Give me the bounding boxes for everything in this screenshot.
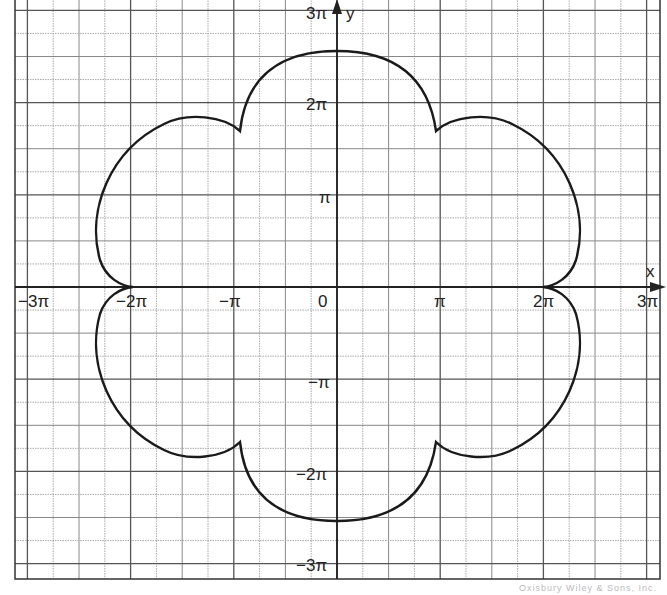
x-tick-pi: π [434, 292, 446, 311]
y-tick-neg2pi: −2π [296, 465, 327, 484]
watermark: Oxisbury Wiley & Sons, Inc. [519, 583, 657, 593]
y-tick-neg3pi: −3π [296, 556, 327, 575]
x-tick-zero: 0 [318, 292, 327, 311]
plot-area: −3π −2π −π 0 π 2π 3π 3π 2π π −π −2π −3π … [0, 0, 667, 595]
y-tick-negpi: −π [308, 373, 330, 392]
tick-labels: −3π −2π −π 0 π 2π 3π 3π 2π π −π −2π −3π … [18, 4, 658, 575]
x-tick-2pi: 2π [533, 292, 554, 311]
y-tick-2pi: 2π [306, 95, 327, 114]
y-axis-label: y [346, 4, 355, 23]
x-tick-neg2pi: −2π [116, 292, 147, 311]
x-axis-arrow-icon [650, 282, 666, 292]
y-tick-pi: π [319, 188, 331, 207]
flower-curve [96, 51, 580, 521]
x-tick-3pi: 3π [637, 292, 658, 311]
x-axis-label: x [646, 262, 655, 281]
y-axis-arrow-icon [332, 0, 342, 14]
y-tick-3pi: 3π [306, 4, 327, 23]
x-tick-negpi: −π [219, 292, 241, 311]
x-tick-neg3pi: −3π [18, 292, 49, 311]
